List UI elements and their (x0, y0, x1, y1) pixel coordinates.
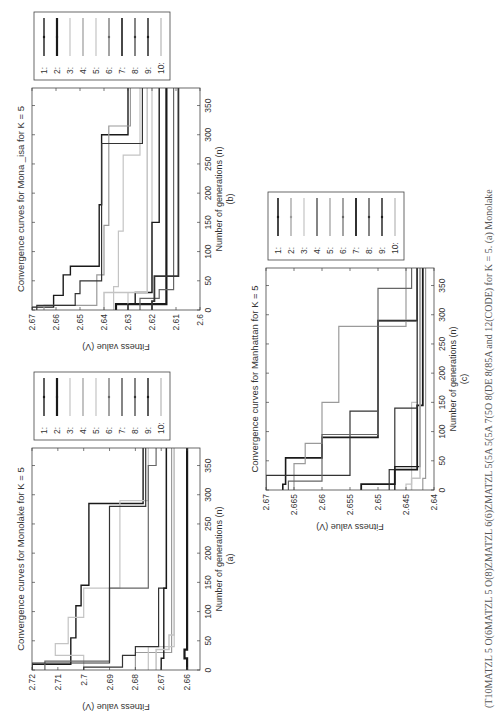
svg-text:250: 250 (203, 157, 213, 171)
series-line-8 (389, 268, 417, 490)
svg-text:150: 150 (203, 575, 213, 589)
x-axis-label: Number of generations (n) (214, 146, 224, 251)
legend-label: 3: (299, 247, 309, 254)
subfigure-label: (b) (225, 193, 235, 204)
svg-text:0: 0 (437, 487, 447, 492)
series-line-8 (84, 448, 167, 670)
legend-label: 4: (312, 247, 322, 254)
svg-text:150: 150 (437, 395, 447, 409)
svg-text:100: 100 (437, 424, 447, 438)
svg-text:2.64: 2.64 (429, 494, 439, 511)
legend-label: 4: (78, 67, 88, 74)
legend-label: 9: (377, 247, 387, 254)
subfigure-label: (c) (459, 374, 469, 385)
svg-text:50: 50 (203, 636, 213, 646)
series-line-6 (45, 448, 156, 670)
legend-label: 9: (143, 427, 153, 434)
series-line-3 (55, 448, 148, 670)
legend-label: 6: (104, 67, 114, 74)
series-line-4 (44, 88, 130, 310)
svg-text:2.68: 2.68 (130, 674, 140, 691)
chart-svg: Convergence curves for Manhattan for K =… (242, 184, 474, 534)
legend-label: 7: (117, 67, 127, 74)
series-line-3 (114, 88, 140, 310)
legend-label: 2: (52, 427, 62, 434)
legend-label: 3: (65, 67, 75, 74)
legend-label: 1: (39, 427, 49, 434)
svg-text:2.66: 2.66 (317, 494, 327, 511)
svg-text:2.62: 2.62 (147, 314, 157, 331)
svg-text:150: 150 (203, 215, 213, 229)
y-axis-label: Fitness value (V) (82, 342, 150, 352)
svg-text:2.7: 2.7 (79, 674, 89, 686)
legend-label: 1: (273, 247, 283, 254)
svg-text:50: 50 (437, 456, 447, 466)
series-line-5 (148, 448, 174, 670)
subfigure-label: (a) (225, 553, 235, 564)
legend: 1:2:3:4:5:6:7:8:9:10: (34, 372, 170, 440)
svg-text:2.65: 2.65 (373, 494, 383, 511)
svg-text:2.655: 2.655 (345, 494, 355, 516)
svg-text:2.72: 2.72 (27, 674, 37, 691)
legend-label: 2: (52, 67, 62, 74)
legend-label: 2: (286, 247, 296, 254)
legend-label: 1: (39, 67, 49, 74)
legend-label: 3: (65, 427, 75, 434)
svg-text:200: 200 (203, 546, 213, 560)
legend-label: 5: (91, 427, 101, 434)
legend-label: 5: (325, 247, 335, 254)
x-axis-label: Number of generations (n) (214, 506, 224, 611)
chart-svg: Convergence curves for Monolake for K = … (8, 364, 240, 714)
svg-text:200: 200 (437, 366, 447, 380)
legend-label: 7: (117, 427, 127, 434)
legend-label: 8: (130, 67, 140, 74)
legend: 1:2:3:4:5:6:7:8:9:10: (34, 12, 170, 80)
svg-text:2.61: 2.61 (171, 314, 181, 331)
legend-label: 6: (338, 247, 348, 254)
chart-title: Convergence curves for Monolake for K = … (15, 467, 26, 651)
series-line-10 (412, 268, 420, 490)
series-line-8 (37, 88, 143, 310)
svg-text:350: 350 (203, 458, 213, 472)
svg-text:2.69: 2.69 (105, 674, 115, 691)
svg-text:2.67: 2.67 (27, 314, 37, 331)
figure-caption: (T10MATZL 5 O(6MATZL 5 O(8)ZMATZL 6(6)ZM… (476, 0, 501, 714)
legend-label: 8: (364, 247, 374, 254)
svg-text:250: 250 (203, 517, 213, 531)
svg-text:300: 300 (203, 487, 213, 501)
chart-title: Convergence curves for Mona _isa for K =… (15, 106, 26, 292)
series-line-9 (161, 448, 166, 670)
series-line-10 (104, 88, 147, 310)
legend-label: 4: (78, 427, 88, 434)
svg-text:100: 100 (203, 244, 213, 258)
svg-text:2.65: 2.65 (75, 314, 85, 331)
series-line-9 (395, 268, 420, 490)
chart-mona-lisa: Convergence curves for Mona _isa for K =… (8, 4, 240, 354)
x-axis-label: Number of generations (n) (448, 326, 458, 431)
legend-label: 7: (351, 247, 361, 254)
rotated-page: Convergence curves for Monolake for K = … (0, 0, 501, 714)
chart-manhattan: Convergence curves for Manhattan for K =… (242, 184, 474, 534)
svg-text:0: 0 (203, 307, 213, 312)
svg-text:2.645: 2.645 (401, 494, 411, 516)
svg-text:2.67: 2.67 (261, 494, 271, 511)
series-line-2 (185, 448, 188, 670)
svg-text:0: 0 (203, 667, 213, 672)
svg-text:350: 350 (437, 278, 447, 292)
chart-svg: Convergence curves for Mona _isa for K =… (8, 4, 240, 354)
series-line-1 (32, 88, 128, 310)
svg-text:2.66: 2.66 (182, 674, 192, 691)
legend-label: 10: (390, 242, 400, 254)
y-axis-label: Fitness value (V) (82, 702, 150, 712)
svg-text:50: 50 (203, 276, 213, 286)
legend-label: 8: (130, 427, 140, 434)
legend-label: 5: (91, 67, 101, 74)
svg-text:2.63: 2.63 (123, 314, 133, 331)
svg-text:300: 300 (437, 307, 447, 321)
svg-text:300: 300 (203, 127, 213, 141)
svg-text:2.67: 2.67 (156, 674, 166, 691)
legend-label: 6: (104, 427, 114, 434)
svg-text:350: 350 (203, 98, 213, 112)
legend-label: 10: (156, 422, 166, 434)
svg-text:2.71: 2.71 (53, 674, 63, 691)
